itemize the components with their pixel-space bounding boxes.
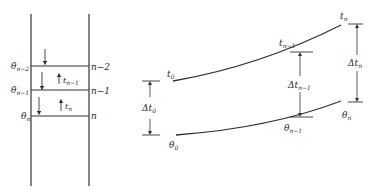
t-n-label: tn xyxy=(340,11,348,22)
temperature-profile-diagram: Δt0 Δtn−1 Δtn t0 tn−1 tn θ0 θn−1 θn xyxy=(141,11,363,151)
theta-label-n-1: θn−1 xyxy=(11,85,29,96)
theta0-label: θ0 xyxy=(169,140,178,151)
t0-label: t0 xyxy=(167,69,175,80)
theta-label-n-2: θn−2 xyxy=(11,61,29,72)
level-label-n-2: n−2 xyxy=(91,62,110,72)
upper-curve-t xyxy=(173,25,341,81)
layer-column-diagram: θn−2 θn−1 θn n−2 n−1 n tn−1 tn xyxy=(11,14,110,186)
diagram-canvas: θn−2 θn−1 θn n−2 n−1 n tn−1 tn Δt0 Δtn−1 xyxy=(0,0,373,196)
t-n-1-label: tn−1 xyxy=(279,38,295,49)
delta-t-n-1-label: Δtn−1 xyxy=(287,80,311,91)
t-label-n-1: tn−1 xyxy=(63,76,79,86)
lower-curve-theta xyxy=(176,101,341,135)
level-label-n-1: n−1 xyxy=(91,86,110,96)
level-label-n: n xyxy=(91,111,97,121)
theta-label-n: θn xyxy=(21,111,30,122)
delta-t-n-label: Δtn xyxy=(347,58,362,69)
theta-n-label: θn xyxy=(342,110,351,121)
t-label-n: tn xyxy=(65,102,72,112)
delta-t0-label: Δt0 xyxy=(141,103,156,114)
theta-n-1-label: θn−1 xyxy=(284,123,302,134)
